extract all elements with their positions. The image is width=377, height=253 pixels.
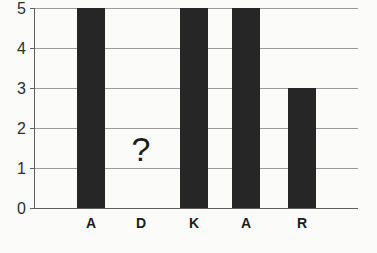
plot-area: ? (35, 8, 358, 208)
y-tick-label-2: 2 (14, 121, 29, 137)
y-tick-label-0: 0 (14, 201, 29, 217)
x-tick-label-d: D (127, 216, 155, 230)
y-tick-label-5: 5 (14, 1, 29, 17)
y-tick-label-4: 4 (14, 41, 29, 57)
x-tick-label-a-1: A (77, 216, 105, 230)
bar-a-2 (232, 8, 260, 208)
bar-chart: 5 4 3 2 1 0 ? A D K A R (0, 0, 377, 253)
x-tick-label-r: R (288, 216, 316, 230)
missing-value-question-mark: ? (127, 132, 155, 166)
bar-k (180, 8, 208, 208)
gridline-0-baseline (35, 208, 358, 209)
x-tick-label-k: K (180, 216, 208, 230)
bar-r (288, 88, 316, 208)
x-tick-label-a-2: A (232, 216, 260, 230)
y-tick-label-1: 1 (14, 161, 29, 177)
y-tick-label-3: 3 (14, 81, 29, 97)
bar-a-1 (77, 8, 105, 208)
